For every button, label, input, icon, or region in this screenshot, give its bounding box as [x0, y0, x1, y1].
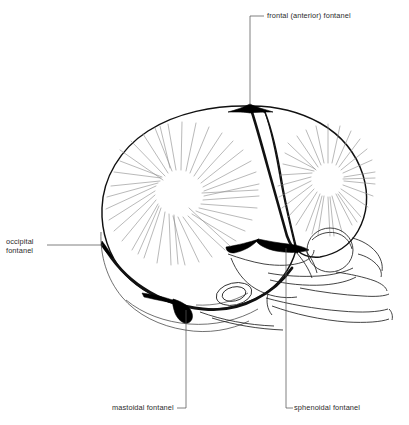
mandible-lower	[272, 306, 389, 322]
nasal-aperture	[358, 254, 381, 277]
label-occipital-line1: occipital	[6, 237, 34, 246]
mandible-body-edge	[389, 309, 392, 320]
maxilla-alveolar	[300, 288, 389, 296]
label-occipital-line2: fontanel	[6, 246, 33, 255]
mandible-ramus	[267, 294, 272, 315]
frontal-leader-line	[250, 16, 264, 105]
label-sphenoidal-fontanel: sphenoidal fontanel	[294, 403, 360, 412]
label-frontal-fontanel: frontal (anterior) fontanel	[267, 11, 351, 20]
fontanel-diagram	[0, 0, 409, 425]
label-mastoidal-fontanel: mastoidal fontanel	[112, 403, 174, 412]
label-occipital-fontanel: occipitalfontanel	[6, 237, 34, 255]
mastoidal-leader-line	[177, 310, 186, 408]
